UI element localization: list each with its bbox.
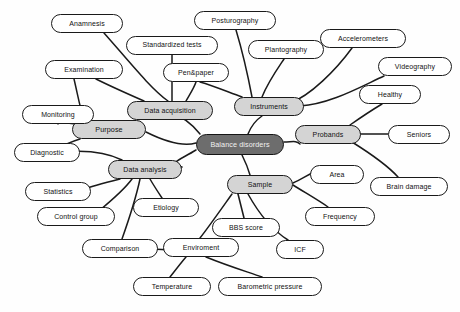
node-label-temperature: Temperature [152,283,192,290]
node-barometric[interactable]: Barometric pressure [218,277,322,296]
node-balance_disorders[interactable]: Balance disorders [196,134,284,155]
node-frequency[interactable]: Frequency [305,207,375,226]
node-label-etiology: Etiology [153,204,179,211]
node-label-seniors: Seniors [407,131,431,138]
node-label-balance_disorders: Balance disorders [210,140,269,147]
node-data_analysis[interactable]: Data analysis [108,160,182,179]
node-control_group[interactable]: Control group [37,207,115,226]
mindmap-canvas: Balance disordersPurposeData acquisition… [0,0,460,312]
node-label-frequency: Frequency [323,213,357,220]
edge-sample-to-bbs_score [238,194,244,218]
node-label-icf: ICF [294,246,306,253]
node-penpaper[interactable]: Pen&paper [163,63,229,82]
edge-instruments-to-plantography [262,59,284,97]
node-label-plantography: Plantography [265,46,307,53]
node-label-barometric: Barometric pressure [238,283,303,290]
node-label-purpose: Purpose [95,125,122,132]
node-label-accelerometers: Accelerometers [338,35,388,42]
node-label-sample: Sample [248,181,272,188]
node-statistics[interactable]: Statistics [25,182,91,201]
node-label-area: Area [329,171,344,178]
node-plantography[interactable]: Plantography [248,40,324,59]
node-label-data_analysis: Data analysis [123,166,166,173]
node-seniors[interactable]: Seniors [388,125,450,144]
node-label-instruments: Instruments [250,103,288,110]
node-monitoring[interactable]: Monitoring [22,105,94,124]
node-enviroment[interactable]: Enviroment [163,238,239,257]
edge-data_analysis-to-control_group [100,179,132,210]
node-examination[interactable]: Examination [45,60,123,79]
node-label-control_group: Control group [54,213,98,220]
node-temperature[interactable]: Temperature [133,277,211,296]
edge-instruments-to-penpaper [200,82,242,97]
node-label-brain_damage: Brain damage [387,183,432,190]
node-instruments[interactable]: Instruments [234,97,304,116]
edge-instruments-to-posturography [236,30,252,97]
edge-balance_disorders-to-sample [242,155,250,175]
node-label-statistics: Statistics [43,188,72,195]
node-label-healthy: Healthy [378,91,402,98]
node-accelerometers[interactable]: Accelerometers [320,29,406,48]
node-label-anamnesis: Anamnesis [69,20,105,27]
node-healthy[interactable]: Healthy [359,85,421,104]
edge-enviroment-to-barometric [206,257,262,277]
edge-data_analysis-to-etiology [150,179,162,198]
edge-data_acquisition-to-examination [96,79,144,101]
node-standardized[interactable]: Standardized tests [126,36,218,55]
node-label-diagnostic: Diagnostic [30,149,64,156]
node-area[interactable]: Area [310,165,364,184]
node-icf[interactable]: ICF [276,240,324,259]
node-comparison[interactable]: Comparison [82,239,158,258]
node-etiology[interactable]: Etiology [133,198,199,217]
node-data_acquisition[interactable]: Data acquisition [127,101,213,120]
node-label-data_acquisition: Data acquisition [144,107,195,114]
edge-balance_disorders-to-instruments [248,116,262,134]
node-label-probands: Probands [313,131,344,138]
node-sample[interactable]: Sample [227,175,293,194]
node-label-enviroment: Enviroment [183,244,219,251]
edge-data_acquisition-to-penpaper [186,82,196,101]
node-diagnostic[interactable]: Diagnostic [14,143,80,162]
node-label-posturography: Posturography [212,17,259,24]
edge-probands-to-healthy [350,104,382,125]
node-anamnesis[interactable]: Anamnesis [51,14,123,33]
node-videography[interactable]: Videography [378,57,452,76]
node-bbs_score[interactable]: BBS score [212,218,280,237]
node-brain_damage[interactable]: Brain damage [370,177,448,196]
node-label-examination: Examination [64,66,104,73]
edge-enviroment-to-temperature [170,257,186,277]
node-label-comparison: Comparison [101,245,140,252]
node-label-monitoring: Monitoring [41,111,75,118]
node-label-standardized: Standardized tests [143,42,202,49]
node-probands[interactable]: Probands [295,125,361,144]
edge-balance_disorders-to-purpose [146,132,196,144]
node-posturography[interactable]: Posturography [194,11,276,30]
node-label-videography: Videography [395,63,435,70]
edge-sample-to-frequency [293,185,328,207]
node-label-bbs_score: BBS score [229,224,263,231]
node-label-penpaper: Pen&paper [178,69,214,76]
